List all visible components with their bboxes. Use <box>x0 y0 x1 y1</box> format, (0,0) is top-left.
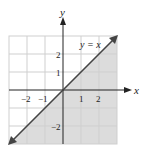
x-tick-label: 2 <box>96 94 101 104</box>
x-axis-label: x <box>133 84 139 96</box>
y-tick-label: 1 <box>56 68 61 78</box>
y-axis-arrow-icon <box>60 17 66 25</box>
x-tick-label: −2 <box>21 94 31 104</box>
x-tick-label: 1 <box>79 94 84 104</box>
inequality-graph: y x y = x −2 −1 1 2 2 1 −2 <box>0 0 143 148</box>
y-axis-label: y <box>59 6 65 18</box>
x-tick-label: −1 <box>38 94 48 104</box>
line-label: y = x <box>79 39 101 50</box>
y-tick-label: 2 <box>56 50 61 60</box>
y-tick-label: −2 <box>51 122 61 132</box>
x-axis-arrow-icon <box>124 87 132 93</box>
